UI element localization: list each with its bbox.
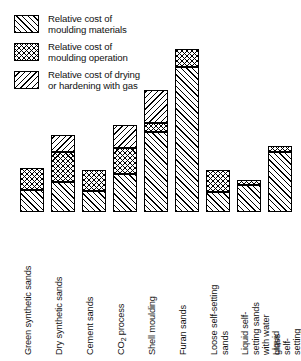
bar-segment-cross-hatch — [144, 123, 168, 132]
x-axis-label-co2-process: CO2 process — [116, 304, 128, 355]
bar-shell-moulding — [144, 0, 168, 212]
x-axis-label-green-synthetic-sands: Green synthetic sands — [23, 266, 34, 355]
bar-segment-back-hatch — [113, 125, 137, 148]
bar-segment-back-hatch — [144, 90, 168, 123]
bar-segment-cross-hatch — [113, 148, 137, 174]
x-axis-label-liquid-self-setting-sands-with-synthetic-resin: Liquid self-setting sands with synthetic… — [271, 320, 301, 355]
x-axis-label-dry-synthetic-sands: Dry synthetic sands — [54, 277, 65, 355]
bar-segment-forward-hatch — [175, 67, 199, 212]
x-axis-labels: Green synthetic sandsDry synthetic sands… — [0, 215, 301, 361]
bar-segment-forward-hatch — [113, 174, 137, 212]
bar-segment-cross-hatch — [268, 146, 292, 152]
bar-segment-cross-hatch — [82, 170, 106, 191]
x-axis-label-shell-moulding: Shell moulding — [147, 296, 158, 355]
bar-segment-forward-hatch — [20, 190, 44, 212]
bar-segment-forward-hatch — [144, 132, 168, 212]
bar-segment-cross-hatch — [206, 170, 230, 192]
bar-green-synthetic-sands — [20, 0, 44, 212]
bar-segment-cross-hatch — [20, 168, 44, 190]
x-axis-label-furan-sands: Furan sands — [178, 305, 189, 355]
bar-segment-cross-hatch — [237, 180, 261, 185]
bar-dry-synthetic-sands — [51, 0, 75, 212]
bar-segment-cross-hatch — [51, 152, 75, 182]
bar-segment-back-hatch — [51, 135, 75, 152]
bar-segment-forward-hatch — [51, 182, 75, 212]
x-axis-label-cement-sands: Cement sands — [85, 297, 96, 355]
bar-segment-forward-hatch — [268, 152, 292, 212]
bar-segment-forward-hatch — [206, 192, 230, 212]
bar-segment-forward-hatch — [237, 185, 261, 212]
bar-segment-forward-hatch — [82, 191, 106, 212]
bar-furan-sands — [175, 0, 199, 212]
bar-cement-sands — [82, 0, 106, 212]
bar-chart-plot-area — [0, 0, 301, 215]
bar-liquid-self-setting-sands-with-synthetic-resin — [268, 0, 292, 212]
bar-liquid-self-setting-sands-with-water-glass — [237, 0, 261, 212]
chart-page: Relative cost of moulding materials Rela… — [0, 0, 301, 361]
bar-segment-cross-hatch — [175, 49, 199, 67]
bar-loose-self-setting-sands — [206, 0, 230, 212]
bar-co2-process — [113, 0, 137, 212]
x-axis-label-loose-self-setting-sands: Loose self-setting sands — [209, 263, 230, 355]
